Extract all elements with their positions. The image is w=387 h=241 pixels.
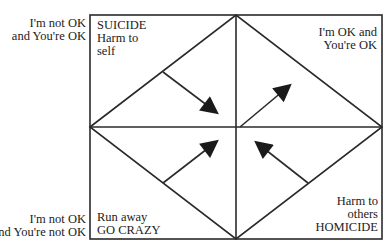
quadrant-top-left-line-3: self xyxy=(97,45,146,58)
quadrant-bottom-right-line-3: HOMICIDE xyxy=(316,221,379,234)
quadrant-label-bottom-left: Run away GO CRAZY xyxy=(97,211,161,237)
arrow-center-to-top-right xyxy=(240,86,289,127)
arrow-bottom-left-to-center xyxy=(163,142,216,183)
quadrant-label-top-left: SUICIDE Harm to self xyxy=(97,19,146,58)
quadrant-bottom-left-line-2: GO CRAZY xyxy=(97,224,161,237)
arrow-bottom-right-to-center xyxy=(257,143,308,183)
quadrant-top-right-line-2: You're OK xyxy=(319,39,378,52)
outer-label-bottom-left-line-2: and You're not OK xyxy=(0,226,86,239)
outer-label-bottom-left: I'm not OK and You're not OK xyxy=(0,213,86,239)
outer-label-top-left-line-2: and You're OK xyxy=(12,30,86,43)
quadrant-label-bottom-right: Harm to others HOMICIDE xyxy=(316,195,379,234)
outer-label-top-left: I'm not OK and You're OK xyxy=(12,17,86,43)
arrow-top-left-to-center xyxy=(163,72,216,112)
quadrant-label-top-right: I'm OK and You're OK xyxy=(319,26,378,52)
